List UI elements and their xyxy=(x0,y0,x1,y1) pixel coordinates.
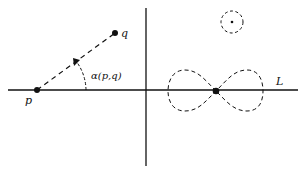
label-q: q xyxy=(121,27,128,40)
angle-arc xyxy=(76,61,86,90)
diagram-canvas: p q α(p,q) L xyxy=(0,0,303,175)
dashed-circle-center xyxy=(231,21,234,24)
point-q xyxy=(112,30,118,36)
diagram-svg: p q α(p,q) L xyxy=(0,0,303,175)
figure-eight-center-point xyxy=(213,88,220,95)
label-angle: α(p,q) xyxy=(91,70,122,81)
label-p: p xyxy=(25,94,32,107)
point-p xyxy=(34,87,40,93)
label-L: L xyxy=(275,75,283,88)
